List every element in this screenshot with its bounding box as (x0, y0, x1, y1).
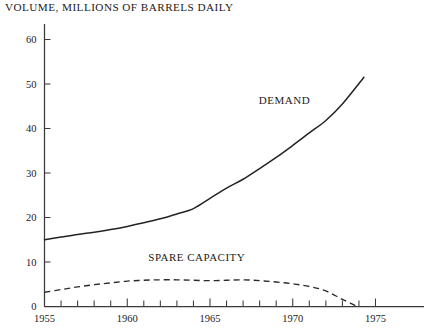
y-tick-label-60: 60 (26, 34, 37, 45)
series-label-group: DEMANDSPARE CAPACITY (148, 94, 310, 263)
y-axis: 0102030405060 (26, 24, 51, 312)
series-line-demand (45, 77, 364, 239)
chart-container: VOLUME, MILLIONS OF BARRELS DAILY 010203… (0, 0, 427, 331)
series-label-demand: DEMAND (259, 94, 310, 106)
x-tick-label-1960: 1960 (117, 313, 138, 324)
y-tick-label-30: 30 (26, 168, 37, 179)
x-axis-tick-labels: 19551960196519701975 (34, 313, 386, 324)
y-tick-label-0: 0 (31, 301, 36, 312)
x-tick-label-1970: 1970 (282, 313, 303, 324)
x-tick-label-1965: 1965 (200, 313, 221, 324)
y-tick-label-20: 20 (26, 212, 37, 223)
y-axis-ticks (45, 40, 51, 307)
data-series-group (45, 77, 364, 306)
x-axis-ticks (45, 299, 376, 307)
y-axis-tick-labels: 0102030405060 (26, 34, 37, 312)
y-tick-label-40: 40 (26, 123, 37, 134)
x-tick-label-1975: 1975 (365, 313, 386, 324)
x-tick-label-1955: 1955 (34, 313, 55, 324)
plot-area: 0102030405060 19551960196519701975 DEMAN… (0, 0, 427, 331)
x-axis: 19551960196519701975 (34, 299, 424, 324)
series-line-spare-capacity (45, 280, 358, 307)
y-tick-label-10: 10 (26, 257, 37, 268)
series-label-spare-capacity: SPARE CAPACITY (148, 251, 245, 263)
y-tick-label-50: 50 (26, 79, 37, 90)
